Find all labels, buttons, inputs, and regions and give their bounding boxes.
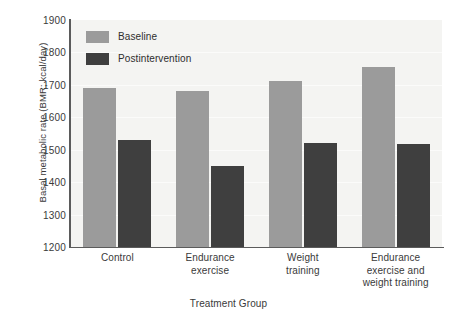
bar-postintervention bbox=[397, 144, 430, 247]
bar-baseline bbox=[176, 91, 209, 247]
y-axis-tick-label: 1800 bbox=[36, 47, 66, 58]
y-axis-tick-label: 1600 bbox=[36, 112, 66, 123]
x-axis-title: Treatment Group bbox=[0, 298, 457, 309]
legend-swatch-icon bbox=[86, 31, 109, 43]
x-axis-tick-label: Enduranceexercise andweight training bbox=[341, 252, 451, 290]
y-axis-tick-label: 1500 bbox=[36, 144, 66, 155]
y-axis-tick-labels: 12001300140015001600170018001900 bbox=[36, 0, 66, 315]
x-axis-tick-label-line: weight training bbox=[341, 277, 451, 290]
chart-legend: BaselinePostintervention bbox=[86, 28, 191, 72]
y-axis-line bbox=[69, 19, 71, 248]
y-axis-tick-label: 1200 bbox=[36, 242, 66, 253]
y-axis-tick-label: 1700 bbox=[36, 79, 66, 90]
chart-figure: Basal metabolic rate (BMR; kcal/day) 120… bbox=[0, 0, 457, 315]
x-axis-tick-label-line: exercise and bbox=[341, 265, 451, 278]
legend-label: Postintervention bbox=[118, 53, 191, 64]
bar-postintervention bbox=[118, 140, 151, 247]
legend-swatch-icon bbox=[86, 53, 109, 65]
bar-baseline bbox=[269, 81, 302, 247]
bar-baseline bbox=[83, 88, 116, 247]
legend-label: Baseline bbox=[118, 31, 157, 42]
y-axis-tick-label: 1400 bbox=[36, 177, 66, 188]
y-axis-tick-label: 1300 bbox=[36, 209, 66, 220]
bar-postintervention bbox=[304, 143, 337, 247]
x-axis-tick-label-line: Endurance bbox=[341, 252, 451, 265]
y-axis-tick-label: 1900 bbox=[36, 15, 66, 26]
bar-postintervention bbox=[211, 166, 244, 247]
legend-item: Baseline bbox=[86, 28, 191, 45]
x-axis-line bbox=[69, 247, 444, 249]
bar-baseline bbox=[362, 67, 395, 247]
legend-item: Postintervention bbox=[86, 50, 191, 67]
